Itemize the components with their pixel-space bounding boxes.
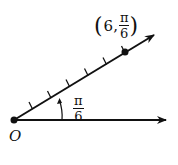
angle-arc-arrowhead bbox=[57, 98, 62, 104]
angle-denominator: 6 bbox=[74, 109, 82, 123]
polar-diagram: O π 6 ( 6, π 6 ) bbox=[0, 0, 178, 165]
angle-label: π 6 bbox=[73, 90, 84, 123]
point-r: 6, bbox=[104, 17, 118, 35]
point-label: ( 6, π 6 ) bbox=[94, 11, 138, 40]
diagram-graphics bbox=[0, 0, 178, 165]
origin-label: O bbox=[9, 127, 21, 145]
open-paren: ( bbox=[94, 15, 103, 37]
theta-numerator: π bbox=[119, 11, 130, 26]
angle-numerator: π bbox=[73, 94, 84, 109]
terminal-ray bbox=[14, 35, 154, 120]
theta-denominator: 6 bbox=[120, 26, 128, 40]
origin-point bbox=[11, 117, 18, 124]
plotted-point bbox=[122, 49, 129, 56]
angle-arc bbox=[60, 101, 63, 121]
close-paren: ) bbox=[129, 15, 138, 37]
